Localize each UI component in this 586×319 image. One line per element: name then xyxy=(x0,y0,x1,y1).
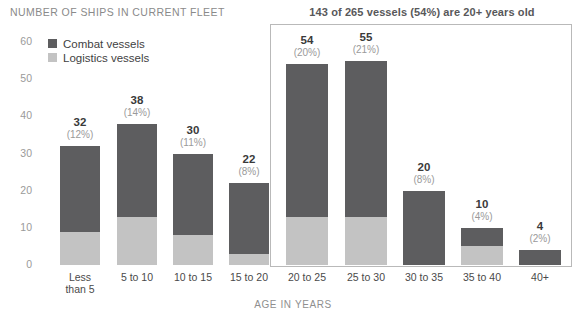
bar-percent-label: (12%) xyxy=(60,129,100,140)
bar-value-label: 10 xyxy=(461,198,503,210)
bar-value-label: 4 xyxy=(519,220,561,232)
bar-group[interactable] xyxy=(519,250,561,265)
bar-percent-label: (2%) xyxy=(519,233,561,244)
x-axis-title: AGE IN YEARS xyxy=(0,299,586,310)
bar-percent-label: (8%) xyxy=(229,166,269,177)
bar-percent-label: (21%) xyxy=(345,44,387,55)
bar-group[interactable] xyxy=(403,191,445,265)
x-axis-category-label: 5 to 10 xyxy=(109,271,165,283)
bar-percent-label: (11%) xyxy=(173,137,213,148)
bar-segment-combat[interactable] xyxy=(60,146,100,231)
plot-area: 32(12%)Less than 538(14%)5 to 1030(11%)1… xyxy=(0,0,586,319)
bar-stack[interactable] xyxy=(117,124,157,265)
bar-value-label: 30 xyxy=(173,124,213,136)
bar-stack[interactable] xyxy=(229,183,269,265)
bar-group[interactable] xyxy=(229,183,269,265)
bar-value-label: 32 xyxy=(60,116,100,128)
x-axis-category-label: 10 to 15 xyxy=(165,271,221,283)
x-axis-category-label: 20 to 25 xyxy=(278,271,336,283)
bar-segment-logistics[interactable] xyxy=(117,217,157,265)
x-axis-category-label: 25 to 30 xyxy=(337,271,395,283)
bar-group[interactable] xyxy=(345,61,387,265)
bar-percent-label: (14%) xyxy=(117,107,157,118)
bar-value-label: 55 xyxy=(345,31,387,43)
x-axis-category-label: Less than 5 xyxy=(52,271,108,295)
x-axis-category-label: 30 to 35 xyxy=(395,271,453,283)
bar-segment-combat[interactable] xyxy=(173,154,213,236)
bar-group[interactable] xyxy=(173,154,213,266)
bar-value-label: 22 xyxy=(229,153,269,165)
bar-group[interactable] xyxy=(286,64,328,265)
bar-stack[interactable] xyxy=(403,191,445,265)
bar-value-label: 54 xyxy=(286,34,328,46)
bar-stack[interactable] xyxy=(60,146,100,265)
bar-segment-combat[interactable] xyxy=(461,228,503,247)
chart-container: NUMBER OF SHIPS IN CURRENT FLEET 143 of … xyxy=(0,0,586,319)
bar-percent-label: (20%) xyxy=(286,47,328,58)
bar-value-label: 38 xyxy=(117,94,157,106)
bar-percent-label: (8%) xyxy=(403,174,445,185)
bar-segment-combat[interactable] xyxy=(117,124,157,217)
x-axis-category-label: 40+ xyxy=(511,271,569,283)
bar-segment-combat[interactable] xyxy=(345,61,387,217)
bar-group[interactable] xyxy=(117,124,157,265)
bar-percent-label: (4%) xyxy=(461,211,503,222)
bar-segment-logistics[interactable] xyxy=(286,217,328,265)
bar-value-label: 20 xyxy=(403,161,445,173)
bar-stack[interactable] xyxy=(286,64,328,265)
bar-stack[interactable] xyxy=(461,228,503,265)
bar-segment-combat[interactable] xyxy=(403,191,445,265)
bar-stack[interactable] xyxy=(519,250,561,265)
bar-group[interactable] xyxy=(461,228,503,265)
x-axis-category-label: 35 to 40 xyxy=(453,271,511,283)
bar-segment-combat[interactable] xyxy=(229,183,269,254)
bar-stack[interactable] xyxy=(173,154,213,266)
bar-segment-logistics[interactable] xyxy=(229,254,269,265)
bar-segment-logistics[interactable] xyxy=(60,232,100,265)
bar-segment-logistics[interactable] xyxy=(461,246,503,265)
bar-segment-combat[interactable] xyxy=(286,64,328,216)
bar-segment-logistics[interactable] xyxy=(345,217,387,265)
bar-group[interactable] xyxy=(60,146,100,265)
bar-segment-combat[interactable] xyxy=(519,250,561,265)
bar-stack[interactable] xyxy=(345,61,387,265)
x-axis-category-label: 15 to 20 xyxy=(221,271,277,283)
bar-segment-logistics[interactable] xyxy=(173,235,213,265)
